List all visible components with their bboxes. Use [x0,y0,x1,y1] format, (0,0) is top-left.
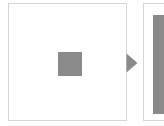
right-arrow-glyph [126,53,138,73]
right-arrow-icon [126,53,138,73]
gray-square [58,52,82,76]
source-panel [8,3,127,121]
figure-canvas [0,0,164,126]
magnified-gray-block [153,15,164,114]
zoomed-panel [143,3,164,121]
